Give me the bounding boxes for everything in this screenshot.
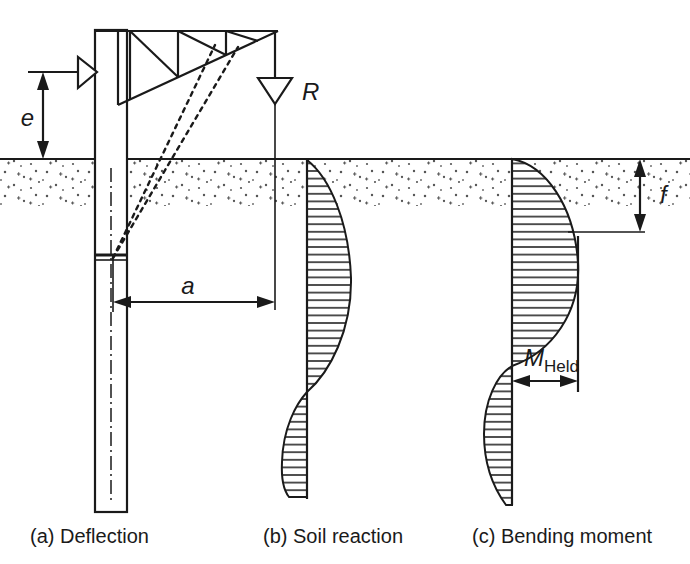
panel-soil-reaction <box>282 159 351 499</box>
truss-diagonal-1 <box>130 31 178 77</box>
dimension-m-arrowhead-right <box>560 375 578 387</box>
caption-bending-moment: (c) Bending moment <box>472 525 653 547</box>
engineering-diagram: e R a <box>0 0 690 564</box>
figure-container: e R a <box>0 0 690 564</box>
moment-label-subscript: Held <box>544 357 579 376</box>
soil-reaction-lower-lobe <box>282 392 307 497</box>
dimension-e: e <box>21 72 49 159</box>
moment-label: MHeld <box>524 344 579 376</box>
moment-label-symbol: M <box>524 344 544 371</box>
panel-bending-moment: f MHeld <box>484 159 669 505</box>
truss-diagonal-2 <box>178 31 226 55</box>
dimension-e-arrowhead-bottom <box>37 141 49 159</box>
deflection-dashed-left <box>113 45 215 258</box>
figure-captions: (a) Deflection (b) Soil reaction (c) Ben… <box>30 525 653 547</box>
reaction-force-R: R <box>258 31 319 105</box>
dimension-e-arrowhead-top <box>37 72 49 90</box>
dimension-f-arrowhead-bottom <box>634 214 646 232</box>
eccentricity-label: e <box>21 104 34 131</box>
caption-soil-reaction: (b) Soil reaction <box>263 525 403 547</box>
dimension-a: a <box>113 255 275 312</box>
reaction-arrow-head <box>258 78 292 104</box>
bending-moment-lower-lobe <box>484 366 512 505</box>
truss-diagonal-3 <box>226 31 258 41</box>
deflected-shape <box>113 45 238 258</box>
reaction-force-label: R <box>302 78 319 105</box>
horizontal-load-arrow <box>28 57 97 88</box>
dimension-a-arrowhead-right <box>257 296 275 308</box>
dimension-m-arrowhead-left <box>512 375 530 387</box>
panel-deflection: e R a <box>21 30 320 512</box>
lever-arm-label: a <box>181 272 194 299</box>
caption-deflection: (a) Deflection <box>30 525 149 547</box>
